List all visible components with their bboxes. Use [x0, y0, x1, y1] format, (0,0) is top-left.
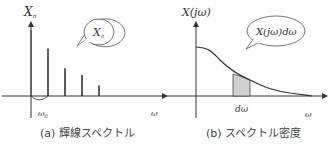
- speech-bubble-a: Xn: [77, 19, 125, 47]
- x-label-a: ω: [151, 109, 158, 118]
- panel-a: Xn ω0 ω Xn (a) 輝線スペクトル: [2, 5, 165, 140]
- caption-a: (a) 輝線スペクトル: [40, 126, 135, 140]
- x-label-b: ω: [305, 110, 312, 119]
- speech-bubble-b: X(jω)dω: [246, 16, 305, 49]
- diagram: Xn ω0 ω Xn (a) 輝線スペクトル X(jω) dω ω X(jω)d…: [0, 0, 334, 154]
- dw-label: dω: [235, 104, 249, 114]
- caption-b: (b) スペクトル密度: [206, 126, 301, 140]
- y-label-b: X(jω): [181, 6, 211, 19]
- panel-b: X(jω) dω ω X(jω)dω (b) スペクトル密度: [167, 6, 325, 140]
- omega0-arc: [31, 96, 48, 100]
- density-curve: [196, 47, 312, 96]
- omega0-label: ω0: [38, 109, 49, 119]
- svg-text:X(jω)dω: X(jω)dω: [255, 26, 297, 37]
- shaded-strip: [233, 74, 250, 96]
- y-label-a: Xn: [23, 5, 37, 19]
